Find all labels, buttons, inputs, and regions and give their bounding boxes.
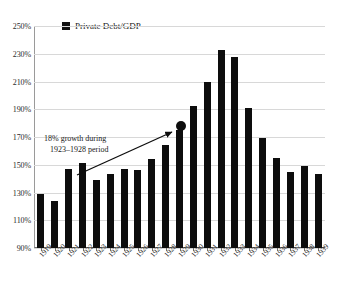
bar-column[interactable] (228, 26, 242, 248)
bar-column[interactable] (145, 26, 159, 248)
bar[interactable] (301, 166, 308, 248)
bar[interactable] (231, 57, 238, 248)
y-axis-tick-label: 190% (0, 105, 31, 114)
bar-column[interactable] (173, 26, 187, 248)
y-axis-tick-label: 170% (0, 133, 31, 142)
bar[interactable] (218, 50, 225, 248)
bar-column[interactable] (311, 26, 325, 248)
bar-column[interactable] (159, 26, 173, 248)
bar-column[interactable] (297, 26, 311, 248)
bar-column[interactable] (131, 26, 145, 248)
bar[interactable] (93, 180, 100, 248)
bar[interactable] (134, 170, 141, 248)
bar[interactable] (65, 169, 72, 248)
bar[interactable] (176, 130, 183, 248)
y-axis-tick-label: 210% (0, 77, 31, 86)
bar[interactable] (204, 82, 211, 249)
private-debt-gdp-chart: Private Debt/GDP 250%230%210%190%170%150… (0, 0, 343, 287)
emphasis-dot-icon (176, 121, 186, 131)
bar-column[interactable] (270, 26, 284, 248)
growth-annotation: 18% growth during 1923–1928 period (44, 133, 108, 155)
y-axis-tick-label: 110% (0, 216, 31, 225)
bar[interactable] (162, 145, 169, 248)
y-axis-tick-label: 150% (0, 160, 31, 169)
bar[interactable] (148, 159, 155, 248)
bar-column[interactable] (214, 26, 228, 248)
annotation-line-2: 1923–1928 period (44, 144, 108, 155)
bar[interactable] (51, 201, 58, 248)
annotation-line-1: 18% growth during (44, 134, 106, 143)
bar-column[interactable] (242, 26, 256, 248)
bar[interactable] (121, 169, 128, 248)
y-axis-tick-label: 130% (0, 188, 31, 197)
bar[interactable] (315, 174, 322, 248)
bar-column[interactable] (283, 26, 297, 248)
bar[interactable] (79, 163, 86, 248)
bar-column[interactable] (186, 26, 200, 248)
bar[interactable] (190, 106, 197, 248)
bar-column[interactable] (117, 26, 131, 248)
bar[interactable] (107, 174, 114, 248)
bar[interactable] (245, 108, 252, 248)
y-axis-tick-label: 90% (0, 244, 31, 253)
bar[interactable] (273, 158, 280, 248)
y-axis-tick-label: 250% (0, 22, 31, 31)
bar-column[interactable] (256, 26, 270, 248)
y-axis-tick-label: 230% (0, 49, 31, 58)
bar[interactable] (287, 172, 294, 248)
bar-column[interactable] (200, 26, 214, 248)
bar[interactable] (37, 194, 44, 248)
bar[interactable] (259, 138, 266, 248)
